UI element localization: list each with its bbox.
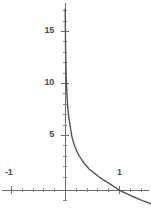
- plot-canvas: [0, 0, 151, 215]
- axes-group: [2, 3, 149, 201]
- x-axis-tick-label-1: 1: [117, 168, 122, 177]
- y-axis-tick-label-10: 10: [34, 78, 54, 87]
- x-axis-tick-label-neg1: -1: [5, 168, 12, 177]
- plot-figure: 15 10 5 -1 1: [0, 0, 151, 215]
- function-curve: [65, 9, 151, 204]
- y-axis-tick-label-15: 15: [34, 26, 54, 35]
- y-axis-tick-label-5: 5: [34, 130, 54, 139]
